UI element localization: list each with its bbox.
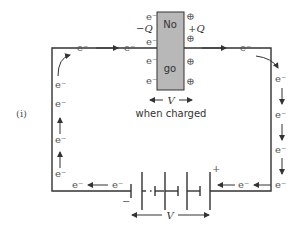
svg-text:e⁻: e⁻: [55, 168, 66, 179]
capacitor-voltage-label: V: [167, 95, 176, 106]
capacitor-caption: when charged: [136, 108, 207, 119]
battery-voltage-label: V: [166, 210, 175, 221]
svg-text:e⁻: e⁻: [275, 144, 286, 155]
capacitor-bottom-text: go: [164, 63, 176, 74]
capacitor-top-text: No: [163, 19, 177, 30]
svg-text:e⁻: e⁻: [124, 42, 135, 53]
svg-text:e⁻: e⁻: [275, 109, 286, 120]
capacitor: No go e⁻ −Q e⁻ e⁻ e⁻ ⊕ +Q ⊕ ⊕ ⊕ V when c…: [136, 11, 207, 119]
electron-label: e⁻: [146, 75, 157, 86]
figure-label: (i): [16, 108, 27, 119]
positive-charge-icon: ⊕: [186, 56, 194, 67]
svg-text:e⁻: e⁻: [55, 79, 66, 90]
electron-flow-bottom-right: e⁻: [218, 179, 271, 190]
svg-text:e⁻: e⁻: [238, 179, 249, 190]
electron-flow-top-left: e⁻ e⁻: [77, 42, 135, 53]
battery: [131, 172, 210, 210]
electron-flow-left: e⁻ e⁻ e⁻ e⁻: [55, 55, 70, 179]
electron-label: e⁻: [146, 55, 157, 66]
svg-text:e⁻: e⁻: [112, 179, 123, 190]
electron-label: e⁻: [146, 11, 157, 22]
electron-label: e⁻: [146, 36, 157, 47]
positive-charge-icon: ⊕: [186, 11, 194, 22]
svg-text:e⁻: e⁻: [72, 179, 83, 190]
battery-plus-label: +: [212, 163, 220, 174]
svg-text:e⁻: e⁻: [77, 42, 88, 53]
svg-text:e⁻: e⁻: [240, 42, 251, 53]
svg-text:e⁻: e⁻: [55, 134, 66, 145]
positive-charge-icon: ⊕: [186, 76, 194, 87]
electron-flow-top-right: e⁻: [202, 42, 278, 68]
svg-text:e⁻: e⁻: [55, 98, 66, 109]
battery-minus-label: −: [122, 196, 130, 207]
capacitor-circuit-diagram: No go e⁻ −Q e⁻ e⁻ e⁻ ⊕ +Q ⊕ ⊕ ⊕ V when c…: [0, 0, 307, 232]
svg-text:e⁻: e⁻: [275, 179, 286, 190]
electron-flow-right: e⁻ e⁻ e⁻ e⁻: [275, 73, 286, 190]
svg-text:e⁻: e⁻: [275, 73, 286, 84]
positive-charge-icon: ⊕: [186, 33, 194, 44]
negative-charge-label: −Q: [136, 23, 153, 34]
electron-flow-bottom-left: e⁻ e⁻: [72, 179, 123, 190]
